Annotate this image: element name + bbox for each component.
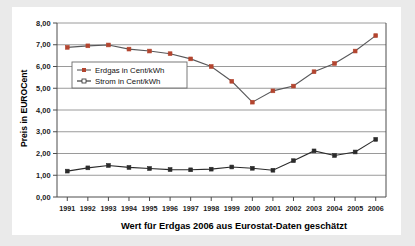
data-point-marker xyxy=(353,49,357,53)
y-tick-label: 8,00 xyxy=(36,19,50,28)
data-point-marker xyxy=(107,43,111,47)
x-tick-label: 1999 xyxy=(224,204,240,213)
data-point-marker xyxy=(312,70,316,74)
data-point-marker xyxy=(353,150,357,154)
data-point-marker xyxy=(333,154,337,158)
x-tick-label: 1996 xyxy=(162,204,178,213)
x-axis-caption: Wert für Erdgas 2006 aus Eurostat-Daten … xyxy=(121,221,347,231)
data-point-marker xyxy=(271,168,275,172)
series-line-strom xyxy=(67,139,375,171)
data-point-marker xyxy=(312,149,316,153)
y-axis-title: Preis in EUROCent xyxy=(19,70,29,147)
x-tick-label: 2001 xyxy=(265,204,281,213)
chart-figure: 0,001,002,003,004,005,006,007,008,00 199… xyxy=(0,0,415,246)
y-tick-label: 4,00 xyxy=(36,106,50,115)
line-chart: 0,001,002,003,004,005,006,007,008,00 199… xyxy=(12,7,401,235)
x-tick-label: 1994 xyxy=(121,204,137,213)
data-point-marker xyxy=(107,164,111,168)
x-tick-label: 1992 xyxy=(80,204,96,213)
x-tick-label: 2000 xyxy=(244,204,260,213)
data-point-marker xyxy=(65,45,69,49)
data-point-marker xyxy=(127,166,131,170)
x-tick-label: 1998 xyxy=(203,204,219,213)
x-tick-label: 1995 xyxy=(142,204,158,213)
data-point-marker xyxy=(189,57,193,61)
data-point-marker xyxy=(292,84,296,88)
legend-label-erdgas: Erdgas in Cent/kWh xyxy=(95,66,164,75)
data-point-marker xyxy=(292,159,296,163)
data-point-marker xyxy=(168,52,172,56)
data-point-marker xyxy=(127,47,131,51)
data-point-marker xyxy=(148,167,152,171)
data-point-marker xyxy=(65,169,69,173)
data-point-marker xyxy=(189,168,193,172)
data-point-marker xyxy=(374,34,378,38)
y-tick-label: 2,00 xyxy=(36,149,50,158)
x-tick-label: 2006 xyxy=(368,204,384,213)
data-point-marker xyxy=(230,165,234,169)
data-point-marker xyxy=(250,166,254,170)
data-point-marker xyxy=(374,137,378,141)
y-axis-ticks: 0,001,002,003,004,005,006,007,008,00 xyxy=(36,19,57,202)
data-point-marker xyxy=(209,65,213,69)
x-tick-label: 2002 xyxy=(285,204,301,213)
y-tick-label: 5,00 xyxy=(36,84,50,93)
data-point-marker xyxy=(333,62,337,66)
y-tick-label: 0,00 xyxy=(36,193,50,202)
legend-label-strom: Strom in Cent/kWh xyxy=(95,77,160,86)
data-point-marker xyxy=(86,44,90,48)
data-point-marker xyxy=(148,49,152,53)
x-tick-label: 2003 xyxy=(306,204,322,213)
chart-legend: Erdgas in Cent/kWh Strom in Cent/kWh xyxy=(72,62,187,88)
y-tick-label: 7,00 xyxy=(36,40,50,49)
legend-marker-erdgas xyxy=(82,68,86,72)
x-tick-label: 1991 xyxy=(59,204,75,213)
legend-marker-strom xyxy=(82,79,86,83)
y-tick-label: 1,00 xyxy=(36,171,50,180)
x-axis-ticks: 1991199219931994199519961997199819992000… xyxy=(59,197,383,213)
x-tick-label: 2004 xyxy=(327,204,343,213)
x-tick-label: 1997 xyxy=(183,204,199,213)
x-tick-label: 2005 xyxy=(347,204,363,213)
data-point-marker xyxy=(86,166,90,170)
data-point-marker xyxy=(271,89,275,93)
x-tick-label: 1993 xyxy=(100,204,116,213)
chart-card: 0,001,002,003,004,005,006,007,008,00 199… xyxy=(12,7,401,235)
plot-area-wrapper: 0,001,002,003,004,005,006,007,008,00 199… xyxy=(12,7,401,235)
data-point-marker xyxy=(250,100,254,104)
y-tick-label: 6,00 xyxy=(36,62,50,71)
data-point-marker xyxy=(230,79,234,83)
y-tick-label: 3,00 xyxy=(36,127,50,136)
data-point-marker xyxy=(209,167,213,171)
data-point-marker xyxy=(168,168,172,172)
